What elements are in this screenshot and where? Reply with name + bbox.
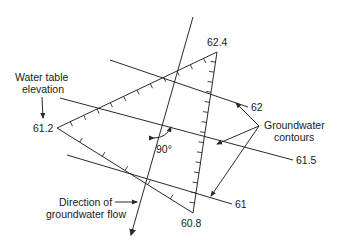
- contour-label-61: 61: [235, 198, 247, 210]
- contour-label-62: 62: [251, 101, 263, 113]
- flow-label-line1: Direction of: [59, 196, 112, 208]
- contour-lines: [60, 60, 293, 204]
- groundwater-contours-label-line2: contours: [274, 131, 314, 143]
- vertex-label-left: 61.2: [33, 122, 54, 134]
- vertex-label-top: 62.4: [207, 36, 228, 48]
- vertex-label-bottom: 60.8: [181, 217, 202, 229]
- groundwater-flow-diagram: 90° 62.4 61.2 60.8 62 61.5 61 Water tabl…: [0, 0, 342, 250]
- water-table-pointer-arrow: [42, 97, 43, 118]
- angle-label: 90°: [156, 143, 172, 155]
- right-angle-arc: [154, 127, 171, 138]
- elevation-triangle: [57, 52, 217, 213]
- flow-direction-arrow: [131, 17, 193, 235]
- contour-label-61-5: 61.5: [296, 154, 317, 166]
- water-table-label-line1: Water table: [15, 71, 68, 83]
- flow-label-line2: groundwater flow: [46, 208, 126, 220]
- groundwater-contours-label-line1: Groundwater: [264, 119, 325, 131]
- water-table-label-line2: elevation: [22, 83, 64, 95]
